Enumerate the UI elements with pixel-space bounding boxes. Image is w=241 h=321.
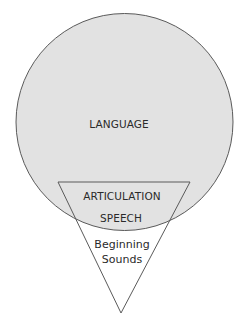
language-label: LANGUAGE <box>89 118 149 130</box>
articulation-label: ARTICULATION <box>83 190 161 202</box>
sounds-label: Sounds <box>102 253 143 266</box>
speech-label: SPEECH <box>100 212 142 224</box>
beginning-label: Beginning <box>94 238 149 251</box>
diagram-canvas: LANGUAGE ARTICULATION SPEECH Beginning S… <box>0 0 241 321</box>
